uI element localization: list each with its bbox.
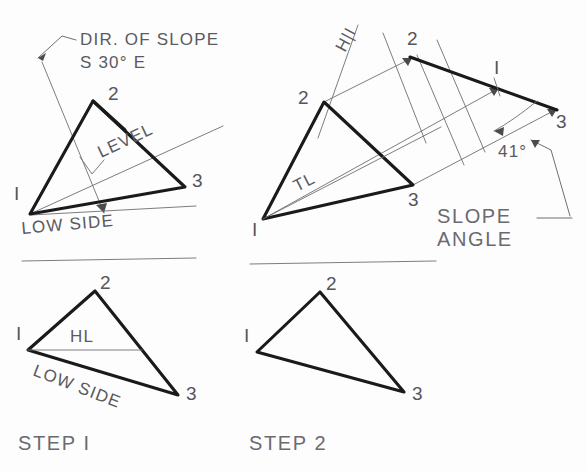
aux-vertex-label-1: I	[252, 219, 257, 240]
edge-vertex-label-1: I	[494, 57, 499, 78]
panel-top-left: I 2 3 DIR. OF SLOPE S 30° E LEVEL LOW SI…	[14, 30, 223, 238]
drawing-sheet: I 2 3 DIR. OF SLOPE S 30° E LEVEL LOW SI…	[0, 0, 587, 471]
vertex-label-1: I	[14, 183, 19, 204]
slope-angle-label-line2: ANGLE	[437, 228, 513, 250]
panel-bottom-left: I 2 3 HL LOW SIDE STEP I	[16, 272, 197, 454]
right-angle-symbol	[80, 157, 104, 174]
slope-angle-label-line1: SLOPE	[437, 205, 512, 227]
step1-hl-label: HL	[70, 327, 94, 346]
level-label: LEVEL	[95, 119, 156, 161]
edge-stub-2	[93, 101, 125, 130]
slope-angle-leader	[531, 140, 570, 216]
direction-of-slope-line	[42, 62, 107, 213]
step2-caption: STEP 2	[249, 432, 327, 454]
edge-vertex-label-3: 3	[556, 111, 567, 132]
slope-angle-arc	[494, 101, 537, 131]
divider-right	[250, 261, 436, 264]
step2-vertex-label-3: 3	[412, 383, 423, 404]
technical-drawing-canvas: I 2 3 DIR. OF SLOPE S 30° E LEVEL LOW SI…	[0, 0, 587, 471]
slope-angle-value: 41°	[498, 142, 527, 161]
step2-triangle	[257, 292, 404, 392]
panel-bottom-right: I 2 3 STEP 2	[244, 273, 423, 454]
step1-caption: STEP I	[18, 432, 91, 454]
edge-vertex-label-2: 2	[407, 28, 418, 49]
vertex-label-3: 3	[192, 170, 203, 191]
dir-of-slope-label-line1: DIR. OF SLOPE	[80, 30, 219, 49]
reference-perpendiculars	[383, 33, 485, 165]
aux-vertex-label-2: 2	[298, 87, 309, 108]
step2-vertex-label-1: I	[244, 325, 249, 346]
step1-vertex-label-2: 2	[100, 272, 111, 293]
aux-vertex-label-3: 3	[408, 189, 419, 210]
edge-view-line	[410, 57, 557, 110]
dir-of-slope-label-line2: S 30° E	[80, 53, 146, 72]
step1-low-side-label: LOW SIDE	[31, 361, 124, 412]
triangle-aux-view	[263, 102, 413, 219]
true-length-label: TL	[290, 169, 318, 196]
dir-of-slope-leader	[38, 36, 76, 61]
vertex-label-2: 2	[108, 83, 119, 104]
divider-left	[22, 258, 196, 261]
step1-vertex-label-1: I	[16, 323, 21, 344]
fold-line-label: H|I	[332, 24, 361, 55]
step2-vertex-label-2: 2	[326, 273, 337, 294]
panel-top-right: I 2 3 2 I 3 H|I TL 41° SLOPE ANGLE	[252, 24, 572, 250]
step1-vertex-label-3: 3	[186, 383, 197, 404]
